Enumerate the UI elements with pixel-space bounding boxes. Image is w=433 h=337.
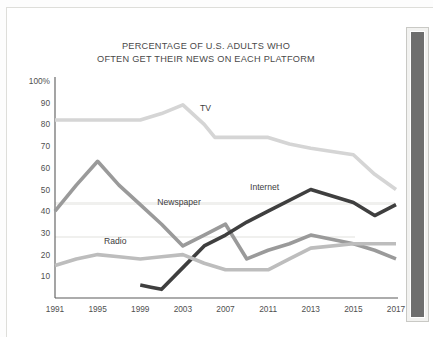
series-label-tv: TV bbox=[200, 103, 211, 113]
y-tick-label: 40 bbox=[41, 206, 51, 216]
series-label-radio: Radio bbox=[104, 236, 127, 246]
x-tick-label: 1991 bbox=[46, 304, 65, 314]
x-tick-label: 2007 bbox=[216, 304, 235, 314]
series-label-internet: Internet bbox=[250, 182, 280, 192]
x-tick-label: 2011 bbox=[259, 304, 277, 314]
scanned-page: PERCENTAGE OF U.S. ADULTS WHO OFTEN GET … bbox=[0, 0, 433, 337]
series-inline-labels: TVNewspaperInternetRadio bbox=[104, 103, 280, 245]
y-tick-label: 80 bbox=[41, 119, 51, 129]
x-tick-label: 2013 bbox=[302, 304, 321, 314]
y-tick-label: 70 bbox=[41, 141, 51, 151]
y-tick-label: 10 bbox=[41, 271, 51, 281]
dark-side-panel bbox=[406, 27, 429, 322]
x-tick-label: 1995 bbox=[88, 304, 107, 314]
x-tick-label: 2003 bbox=[174, 304, 193, 314]
y-tick-label: 60 bbox=[41, 163, 51, 173]
y-tick-label: 20 bbox=[41, 250, 51, 260]
x-tick-label: 2017 bbox=[387, 304, 406, 314]
y-tick-label: 50 bbox=[41, 185, 51, 195]
dark-side-panel-fill bbox=[410, 31, 425, 318]
series-line-tv bbox=[55, 105, 396, 190]
y-tick-label: 30 bbox=[41, 228, 51, 238]
series-label-newspaper: Newspaper bbox=[157, 197, 201, 207]
y-tick-label: 90 bbox=[41, 98, 51, 108]
faint-scan-streaks bbox=[55, 202, 395, 238]
x-tick-label: 2015 bbox=[344, 304, 363, 314]
chart-figure: PERCENTAGE OF U.S. ADULTS WHO OFTEN GET … bbox=[7, 8, 405, 328]
y-axis-tick-labels: 102030405060708090100% bbox=[29, 76, 51, 281]
x-tick-label: 1999 bbox=[131, 304, 150, 314]
x-axis-tick-labels: 199119951999200320072011201320152017 bbox=[46, 304, 406, 314]
y-tick-label: 100% bbox=[29, 76, 51, 86]
series-line-radio bbox=[55, 244, 396, 270]
data-series-group bbox=[55, 105, 396, 289]
line-chart-plot: 102030405060708090100% 19911995199920032… bbox=[7, 8, 405, 328]
